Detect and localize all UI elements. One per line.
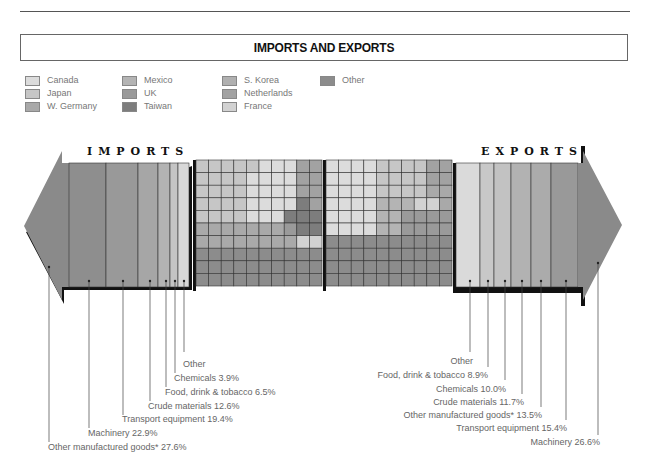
chart-graphic [0,0,650,467]
imports-label-crude: Crude materials 12.6% [148,401,240,411]
imports-label-transport: Transport equipment 19.4% [122,414,233,424]
imports-label-other-manufactured: Other manufactured goods* 27.6% [48,442,187,452]
imports-label-other: Other [183,359,206,369]
exports-label-transport: Transport equipment 15.4% [456,423,567,433]
exports-label-chemicals: Chemicals 10.0% [436,384,506,394]
exports-label-crude: Crude materials 11.7% [433,397,524,407]
exports-country-grid [326,160,452,286]
imports-bands [69,163,189,287]
exports-label-food: Food, drink & tobacco 8.9% [377,370,488,380]
exports-bands [456,163,578,287]
imports-country-grid [196,160,322,286]
exports-arrow-head [578,151,622,300]
imports-label-food: Food, drink & tobacco 6.5% [165,387,276,397]
imports-arrow-head [24,151,69,300]
imports-label-chemicals: Chemicals 3.9% [174,373,239,383]
exports-label-other-manufactured: Other manufactured goods* 13.5% [403,410,542,420]
imports-label-machinery: Machinery 22.9% [88,428,158,438]
exports-label-other: Other [450,356,473,366]
exports-label-machinery: Machinery 26.6% [530,437,600,447]
